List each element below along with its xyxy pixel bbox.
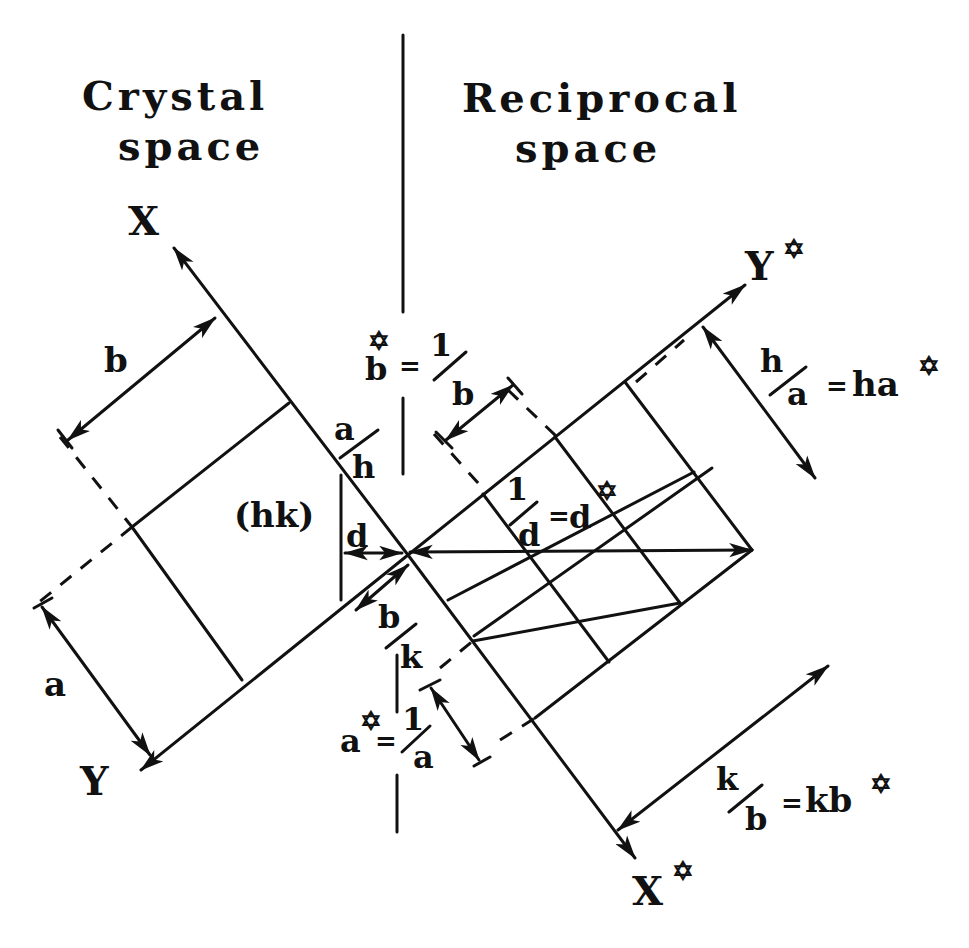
label-hk-plane: (hk) <box>234 495 314 535</box>
title-crystal-space: space <box>118 122 264 169</box>
svg-text:k: k <box>400 638 423 676</box>
label-b-star-eq: b ✡ = 1 b <box>365 326 474 413</box>
label-h-over-a-eq-ha-star: h a = ha ✡ <box>760 342 940 413</box>
b-dimension-arrow <box>68 318 215 440</box>
label-b-over-k: b k <box>378 598 423 676</box>
axis-label-y: Y <box>79 757 109 804</box>
svg-text:=: = <box>375 726 397 756</box>
svg-text:d: d <box>518 516 540 554</box>
svg-text:ha: ha <box>852 364 899 404</box>
title-reciprocal: Reciprocal <box>462 74 741 121</box>
svg-text:=: = <box>826 371 848 401</box>
crystal-reciprocal-space-diagram: Crystal space Reciprocal space X Y b a (… <box>0 0 969 948</box>
svg-text:✡: ✡ <box>596 476 618 506</box>
svg-text:=: = <box>781 788 803 818</box>
svg-text:b: b <box>452 375 474 413</box>
title-reciprocal-space: space <box>515 124 661 171</box>
svg-text:✡: ✡ <box>918 351 940 381</box>
svg-text:a: a <box>340 722 361 760</box>
y-axis-arrow <box>141 555 408 770</box>
a-star-arrow <box>431 688 479 760</box>
svg-text:h: h <box>352 448 375 486</box>
svg-text:✡: ✡ <box>870 769 892 799</box>
svg-text:a: a <box>413 738 434 776</box>
svg-text:✡: ✡ <box>672 856 694 886</box>
svg-text:a: a <box>787 375 808 413</box>
svg-text:1: 1 <box>402 700 424 738</box>
label-b: b <box>104 340 128 380</box>
svg-text:a: a <box>334 410 355 448</box>
svg-text:h: h <box>760 342 783 380</box>
svg-text:=: = <box>548 501 570 531</box>
svg-text:Y: Y <box>744 242 774 289</box>
axis-label-x: X <box>128 197 159 244</box>
svg-text:1: 1 <box>506 470 528 508</box>
label-k-over-b-eq-kb-star: k b = kb ✡ <box>716 760 892 838</box>
label-a-star-eq: a ✡ = 1 a <box>340 700 434 776</box>
title-crystal: Crystal <box>82 72 268 119</box>
svg-text:k: k <box>716 760 739 798</box>
svg-text:✡: ✡ <box>783 234 805 264</box>
label-d: d <box>346 517 368 555</box>
d-star-arrow <box>410 550 752 552</box>
svg-text:b: b <box>378 598 400 636</box>
svg-text:kb: kb <box>805 780 852 820</box>
svg-text:d: d <box>569 498 591 536</box>
label-a: a <box>44 664 66 704</box>
axis-label-y-star: Y ✡ <box>744 234 805 289</box>
svg-text:b: b <box>745 800 767 838</box>
svg-text:X: X <box>632 867 663 914</box>
crystal-lattice <box>34 248 408 770</box>
svg-text:=: = <box>399 351 421 381</box>
svg-text:✡: ✡ <box>368 326 390 356</box>
axis-label-x-star: X ✡ <box>632 856 694 914</box>
svg-text:1: 1 <box>430 326 452 364</box>
